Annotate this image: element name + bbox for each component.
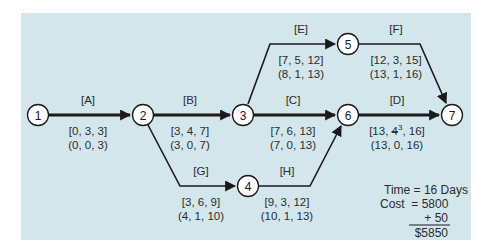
activity-times-C: [7, 6, 13] [271,125,316,137]
activity-times-D: [13, 43, 16] [369,123,425,137]
activity-times-H: [9, 3, 12] [265,196,310,208]
activity-slack-C: (7, 0, 13) [270,139,316,151]
times-prefix: [13, [369,125,391,137]
node-2: 2 [133,105,154,126]
activity-name-B: [B] [183,94,197,106]
activity-slack-B: (3, 0, 7) [170,139,210,151]
node-3: 3 [233,105,254,126]
activity-slack-D: (13, 0, 16) [371,139,424,151]
activity-times-G: [3, 6, 9] [182,196,220,208]
summary-addition: + 50 [424,211,448,225]
activity-name-H: [H] [280,165,295,177]
activity-times-B: [3, 4, 7] [171,125,209,137]
times-suffix: , 16] [402,125,424,137]
node-6: 6 [338,105,359,126]
node-1: 1 [28,105,49,126]
activity-name-F: [F] [389,23,402,35]
node-5: 5 [338,34,359,55]
activity-name-E: [E] [294,23,308,35]
activity-name-G: [G] [193,165,208,177]
node-label: 4 [245,180,252,194]
activity-slack-F: (13, 1, 16) [370,68,423,80]
summary-total: $5850 [415,226,449,240]
summary-cost: Cost = 5800 [380,197,449,211]
activity-slack-E: (8, 1, 13) [278,68,324,80]
activity-slack-H: (10, 1, 13) [261,210,314,222]
activity-slack-A: (0, 0, 3) [68,139,108,151]
node-label: 1 [35,109,42,123]
summary-time: Time = 16 Days [384,183,468,197]
node-label: 6 [345,109,352,123]
activity-times-E: [7, 5, 12] [279,54,324,66]
activity-name-A: [A] [81,94,95,106]
node-7: 7 [442,105,463,126]
pert-network-diagram: 1 2 3 4 5 6 7 [A] [0, 3, 3] (0 [0,0,484,252]
summary-block: Time = 16 Days Cost = 5800 + 50 $5850 [380,183,468,240]
activity-slack-G: (4, 1, 10) [178,210,224,222]
node-label: 7 [449,109,456,123]
node-label: 2 [140,109,147,123]
node-label: 5 [345,38,352,52]
activity-times-F: [12, 3, 15] [370,54,421,66]
activity-name-D: [D] [390,94,405,106]
node-4: 4 [238,176,259,197]
activity-name-C: [C] [286,94,301,106]
activity-times-A: [0, 3, 3] [69,125,107,137]
node-label: 3 [240,109,247,123]
